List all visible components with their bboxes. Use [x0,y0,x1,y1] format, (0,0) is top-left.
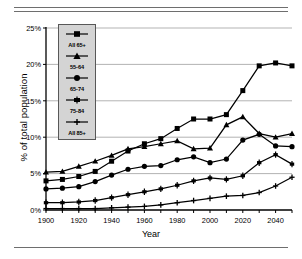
data-point [207,160,212,165]
data-point [44,178,49,183]
circle-marker-icon [65,74,89,82]
data-point [273,151,277,157]
y-axis-tick-label: 25% [26,24,41,33]
legend-label-all-65-plus: All 65+ [59,41,95,49]
figure-page: % of total population Year 0%5%10%15%20%… [0,0,302,259]
data-point [208,117,213,122]
legend-label-75-84: 75-84 [59,107,95,115]
data-point [273,60,278,65]
data-point [43,186,48,191]
data-point [60,177,65,182]
legend-key-4 [59,115,95,129]
data-point [142,164,147,169]
x-axis-tick-label: 1940 [103,216,119,225]
data-point [60,186,65,191]
data-point [76,174,81,179]
data-point [77,199,81,205]
data-point [224,112,229,117]
data-point [158,202,163,208]
x-axis-tick-label: 1900 [38,216,54,225]
legend-label-55-64: 55-64 [59,63,95,71]
legend-key-2 [59,71,95,85]
y-axis-tick-label: 5% [30,169,41,178]
legend-label-all-85-plus: All 85+ [59,129,95,137]
data-point [191,117,196,122]
chart-legend[interactable]: All 65+ 55-64 65-74 [58,24,96,140]
data-point [142,204,147,210]
data-point [76,184,81,189]
data-point [109,159,114,164]
data-point [93,179,98,184]
data-point [224,193,229,199]
square-marker-icon [65,30,89,38]
data-point [174,138,180,143]
data-point [224,176,228,182]
data-point [175,126,180,131]
header-rule-top [14,7,288,8]
x-axis-tick-label: 2040 [267,216,283,225]
legend-key-3 [59,93,95,107]
data-point [240,138,245,143]
plus-marker-icon [65,118,89,126]
legend-key-1 [59,49,95,63]
data-point [223,122,229,127]
data-point [125,167,130,172]
data-point [142,189,146,195]
data-point [289,144,294,149]
data-point [93,197,97,203]
data-point [240,114,246,119]
data-point [159,186,163,192]
data-point [125,204,130,210]
data-point [273,143,278,148]
x-axis-tick-label: 1920 [71,216,87,225]
data-point [289,174,294,180]
data-point [191,178,195,184]
data-point [240,193,245,199]
data-point [175,200,180,206]
legend-label-65-74: 65-74 [59,85,95,93]
y-axis-title: % of total population [18,43,29,193]
data-point [208,175,212,181]
data-point [109,172,114,177]
data-point [191,198,196,204]
header-rule-bottom [14,11,288,12]
data-point [109,194,113,200]
data-point [158,136,163,141]
data-point [191,154,196,159]
data-point [257,132,262,137]
data-point [224,156,229,161]
chart-figure: % of total population Year 0%5%10%15%20%… [0,16,302,244]
y-axis-tick-label: 0% [30,206,41,215]
series-75-84 [44,151,294,205]
data-point [240,88,245,93]
x-axis-tick-label: 1960 [136,216,152,225]
data-point [273,183,278,189]
dash-marker-icon [65,96,89,104]
data-point [126,192,130,198]
footer-rule [14,247,288,248]
series-65-74 [43,132,294,192]
data-point [290,161,294,167]
x-axis-tick-label: 2020 [235,216,251,225]
data-point [290,63,295,68]
legend-key-0 [59,27,95,41]
x-axis-title: Year [0,229,302,239]
x-axis-tick-label: 1980 [169,216,185,225]
x-axis-tick-label: 2000 [202,216,218,225]
data-point [175,182,179,188]
data-point [289,131,295,136]
data-point [44,200,48,206]
data-point [257,190,262,196]
data-point [207,196,212,202]
series-all-85 [43,174,294,211]
data-point [257,159,261,165]
triangle-marker-icon [65,52,89,60]
data-point [93,169,98,174]
data-point [158,163,163,168]
data-point [60,200,64,206]
data-point [257,63,262,68]
line-chart-plot: 0%5%10%15%20%25%190019201940196019802000… [0,16,302,244]
data-point [175,157,180,162]
